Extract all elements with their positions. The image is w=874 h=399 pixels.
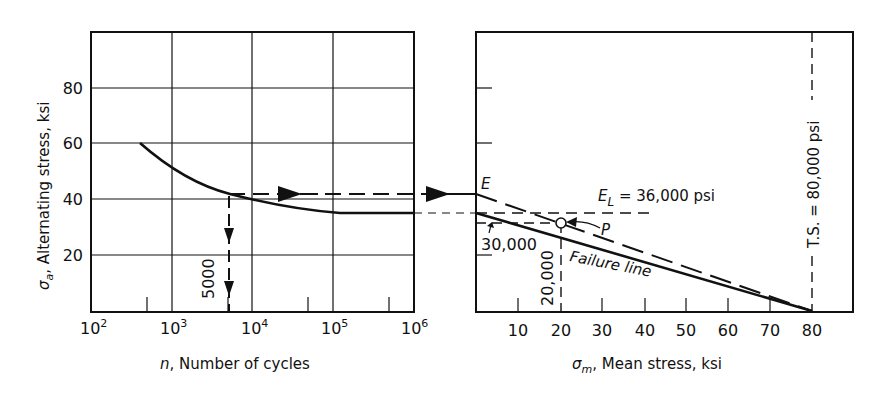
point-p <box>556 218 566 228</box>
right-x-ticks: 10 20 30 40 50 60 70 80 <box>508 321 822 340</box>
left-chart: 5000 20 40 60 80 102 103 104 105 106 n, … <box>35 32 476 373</box>
sn-curve <box>140 143 414 213</box>
label-p: P <box>601 221 611 239</box>
left-y-ticks: 20 40 60 80 <box>63 79 83 265</box>
svg-text:50: 50 <box>676 321 696 340</box>
left-minor-ticks <box>147 297 389 312</box>
svg-text:106: 106 <box>401 317 428 338</box>
svg-text:70: 70 <box>760 321 780 340</box>
svg-text:60: 60 <box>63 134 83 153</box>
svg-text:20: 20 <box>551 321 571 340</box>
right-x-axis-label: σm, Mean stress, ksi <box>572 355 722 376</box>
label-30000: 30,000 <box>481 235 537 254</box>
left-x-ticks: 102 103 104 105 106 <box>80 317 428 338</box>
left-y-axis-label: σa, Alternating stress, ksi <box>35 102 56 290</box>
left-x-axis-label: n, Number of cycles <box>160 355 310 373</box>
svg-text:80: 80 <box>63 79 83 98</box>
label-e: E <box>481 175 491 193</box>
ts-label: T.S. = 80,000 psi <box>805 121 823 249</box>
figure: 5000 20 40 60 80 102 103 104 105 106 n, … <box>0 0 874 399</box>
label-el: EL = 36,000 psi <box>598 187 715 209</box>
svg-text:40: 40 <box>63 190 83 209</box>
left-grid <box>91 32 414 312</box>
down-arrow-2 <box>224 281 234 296</box>
svg-text:104: 104 <box>241 317 268 338</box>
right-chart: T.S. = 80,000 psi P E EL = 36,000 psi 30… <box>448 32 853 376</box>
svg-text:10: 10 <box>508 321 528 340</box>
down-arrow-1 <box>224 228 234 243</box>
svg-text:80: 80 <box>802 321 822 340</box>
svg-text:40: 40 <box>635 321 655 340</box>
svg-text:20: 20 <box>63 246 83 265</box>
svg-text:105: 105 <box>321 317 348 338</box>
right-plot-frame <box>476 32 853 312</box>
label-20000: 20,000 <box>538 250 557 306</box>
svg-text:102: 102 <box>80 317 107 338</box>
svg-text:30: 30 <box>592 321 612 340</box>
svg-text:60: 60 <box>718 321 738 340</box>
svg-text:103: 103 <box>160 317 187 338</box>
label-5000: 5000 <box>199 258 218 299</box>
